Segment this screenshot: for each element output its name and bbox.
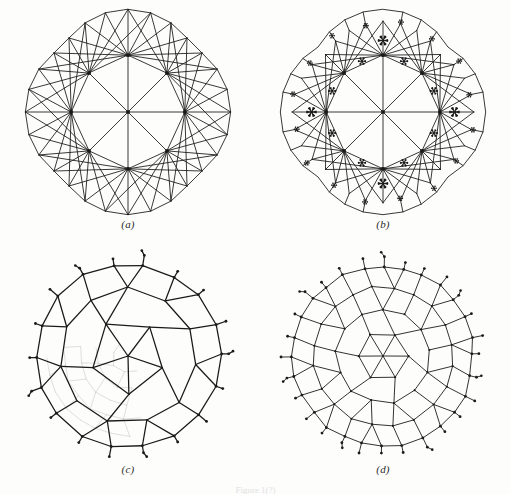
edge xyxy=(56,401,77,413)
vertex-marker xyxy=(280,356,283,359)
edge xyxy=(105,378,117,387)
edge xyxy=(313,288,326,299)
edge xyxy=(294,376,302,395)
edge xyxy=(142,420,147,446)
edge xyxy=(167,151,217,155)
edge xyxy=(128,169,151,211)
edge xyxy=(105,169,128,211)
asterisk-core xyxy=(333,184,335,186)
edge xyxy=(190,325,216,329)
asterisk-core xyxy=(309,62,311,64)
edge xyxy=(335,306,344,328)
edge xyxy=(32,388,42,392)
edge xyxy=(365,267,384,269)
edge xyxy=(314,324,321,346)
vertex-marker xyxy=(69,110,72,113)
edge xyxy=(383,335,395,356)
vertex-marker xyxy=(413,294,415,296)
vertex-marker xyxy=(286,335,289,338)
asterisk-core xyxy=(381,182,384,185)
edge xyxy=(432,285,441,306)
edge xyxy=(39,112,71,155)
vertex-marker xyxy=(446,276,449,279)
edge xyxy=(404,269,422,275)
vertex-marker xyxy=(215,385,218,388)
vertex-marker xyxy=(451,344,453,346)
edge xyxy=(363,12,365,23)
edge xyxy=(112,433,130,436)
vertex-marker xyxy=(320,323,322,325)
vertex-marker xyxy=(341,447,344,450)
edge xyxy=(383,310,405,315)
edge xyxy=(351,391,371,400)
asterisk-core xyxy=(400,21,402,23)
vertex-marker xyxy=(300,316,303,319)
edge xyxy=(383,30,417,55)
vertex-marker xyxy=(439,284,442,287)
vertex-marker xyxy=(87,71,90,74)
edge xyxy=(129,368,162,395)
edge xyxy=(29,112,71,135)
panel-d-label: (d) xyxy=(263,463,503,475)
vertex-marker xyxy=(321,388,323,390)
edge xyxy=(37,358,42,388)
edge xyxy=(395,356,408,377)
edge xyxy=(345,436,362,443)
edge xyxy=(302,395,315,412)
edge xyxy=(81,346,82,362)
vertex-marker xyxy=(369,334,371,336)
edge xyxy=(440,112,465,146)
edge xyxy=(414,275,422,295)
edge xyxy=(85,169,128,201)
edge xyxy=(427,350,429,372)
edge xyxy=(394,390,415,403)
vertex-marker xyxy=(420,71,423,74)
edge xyxy=(167,23,171,73)
edge xyxy=(452,345,453,366)
vertex-marker xyxy=(457,294,460,297)
vertex-marker xyxy=(108,455,111,458)
edge xyxy=(393,420,414,426)
edge xyxy=(93,368,129,395)
edge xyxy=(216,321,226,324)
edge xyxy=(83,266,114,275)
edge xyxy=(283,130,294,132)
vertex-marker xyxy=(74,264,77,267)
vertex-marker xyxy=(165,149,168,152)
edge xyxy=(429,345,451,350)
edge xyxy=(359,356,371,377)
edge xyxy=(394,269,403,288)
vertex-marker xyxy=(87,149,90,152)
edge xyxy=(39,155,128,169)
vertex-marker xyxy=(452,298,455,301)
vertex-marker xyxy=(382,309,384,311)
edge xyxy=(394,289,413,295)
edge xyxy=(128,266,143,287)
edge xyxy=(414,404,434,419)
edge xyxy=(151,13,167,73)
edge xyxy=(171,23,185,112)
edge xyxy=(199,415,207,422)
edge xyxy=(107,421,111,447)
edge xyxy=(445,325,451,345)
edge xyxy=(105,13,128,55)
vertex-marker xyxy=(361,314,363,316)
vertex-marker xyxy=(468,374,471,377)
edge xyxy=(445,317,465,325)
vertex-marker xyxy=(426,371,428,373)
edge xyxy=(216,354,221,386)
edge xyxy=(383,169,417,194)
vertex-marker xyxy=(381,53,384,56)
edge xyxy=(371,400,372,424)
vertex-marker xyxy=(481,334,484,337)
edge xyxy=(383,73,422,112)
vertex-marker xyxy=(350,390,352,392)
edge xyxy=(89,151,105,211)
edge xyxy=(432,300,453,306)
vertex-marker xyxy=(342,71,345,74)
edge xyxy=(128,287,166,301)
edge xyxy=(198,295,216,325)
vertex-marker xyxy=(381,110,384,113)
asterisk-core xyxy=(453,110,456,113)
edge xyxy=(179,403,198,415)
